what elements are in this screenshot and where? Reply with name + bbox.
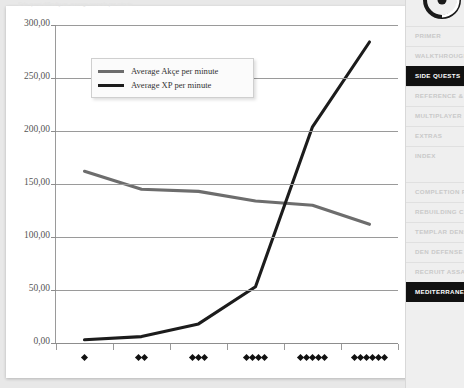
- line-average-akce: [85, 171, 370, 224]
- x-axis-category-labels: [56, 353, 398, 369]
- y-axis-tick: [51, 25, 56, 26]
- legend-swatch-akce: [98, 70, 124, 73]
- chart-card: Side quest difficulty vs. average reward…: [6, 6, 408, 378]
- y-axis-labels: 0,0050,00100,00150,00200,00250,00300,00: [6, 6, 50, 378]
- x-axis-tick: [113, 344, 114, 350]
- y-axis-tick-label: 150,00: [6, 177, 50, 187]
- x-axis-category-6: [341, 353, 398, 363]
- x-axis-category-2: [113, 353, 170, 363]
- y-axis-tick: [51, 78, 56, 79]
- sidebar-group-separator: [406, 166, 464, 182]
- y-axis-tick-label: 200,00: [6, 124, 50, 134]
- sidebar-item-templar-dens[interactable]: TEMPLAR DENS: [406, 222, 464, 242]
- x-axis-category-5: [284, 353, 341, 363]
- sidebar-item-rebuilding-constantinople[interactable]: REBUILDING CONSTANTINOPLE: [406, 202, 464, 222]
- x-axis-ticks: [56, 344, 398, 351]
- chart-legend: Average Akçe per minute Average XP per m…: [91, 58, 254, 98]
- diamond-icon: [381, 354, 388, 361]
- y-axis-tick-label: 300,00: [6, 18, 50, 28]
- sidebar-nav-list: PRIMERWALKTHROUGHSIDE QUESTSREFERENCE & …: [406, 26, 464, 302]
- x-axis-category-1: [56, 353, 113, 363]
- sidebar-item-multiplayer[interactable]: MULTIPLAYER: [406, 106, 464, 126]
- legend-item: Average Akçe per minute: [98, 64, 247, 78]
- sidebar-item-side-quests[interactable]: SIDE QUESTS: [406, 66, 464, 86]
- x-axis-category-4: [227, 353, 284, 363]
- gridline: [56, 131, 398, 132]
- brand-logo-icon: [422, 0, 462, 20]
- gridline: [56, 184, 398, 185]
- sidebar-item-completion-roadmap[interactable]: COMPLETION ROADMAP: [406, 182, 464, 202]
- y-axis-tick: [51, 237, 56, 238]
- sidebar-item-reference-analysis[interactable]: REFERENCE & ANALYSIS: [406, 86, 464, 106]
- diamond-icon: [261, 354, 268, 361]
- y-axis-tick-label: 250,00: [6, 71, 50, 81]
- sidebar-item-index[interactable]: INDEX: [406, 146, 464, 166]
- legend-item: Average XP per minute: [98, 78, 247, 92]
- legend-label-xp: Average XP per minute: [131, 80, 211, 90]
- page-background: Side quest difficulty vs. average reward…: [0, 0, 464, 388]
- diamond-icon: [141, 354, 148, 361]
- legend-swatch-xp: [98, 84, 124, 87]
- y-axis-tick-label: 0,00: [6, 336, 50, 346]
- x-axis-category-3: [170, 353, 227, 363]
- diamond-icon: [201, 354, 208, 361]
- x-axis-tick: [227, 344, 228, 350]
- y-axis-tick-label: 100,00: [6, 230, 50, 240]
- diamond-icon: [81, 354, 88, 361]
- sidebar-item-primer[interactable]: PRIMER: [406, 26, 464, 46]
- sidebar-item-mediterranean-defense[interactable]: MEDITERRANEAN DEFENSE: [406, 282, 464, 302]
- sidebar-item-walkthrough[interactable]: WALKTHROUGH: [406, 46, 464, 66]
- x-axis-tick: [284, 344, 285, 350]
- sidebar-item-extras[interactable]: EXTRAS: [406, 126, 464, 146]
- diamond-icon: [321, 354, 328, 361]
- x-axis-tick: [398, 344, 399, 350]
- y-axis-tick: [51, 290, 56, 291]
- gridline: [56, 25, 398, 26]
- y-axis-tick: [51, 343, 56, 344]
- gridline: [56, 237, 398, 238]
- legend-label-akce: Average Akçe per minute: [131, 66, 218, 76]
- sidebar-item-den-defense[interactable]: DEN DEFENSE: [406, 242, 464, 262]
- sidebar: PRIMERWALKTHROUGHSIDE QUESTSREFERENCE & …: [405, 0, 464, 388]
- sidebar-item-recruit-assassins[interactable]: RECRUIT ASSASSINS: [406, 262, 464, 282]
- chart-caption: Side quest difficulty vs. average reward…: [18, 1, 348, 9]
- y-axis-tick: [51, 184, 56, 185]
- y-axis-tick: [51, 131, 56, 132]
- x-axis-tick: [341, 344, 342, 350]
- y-axis-tick-label: 50,00: [6, 283, 50, 293]
- x-axis-tick: [56, 344, 57, 350]
- gridline: [56, 290, 398, 291]
- x-axis-tick: [170, 344, 171, 350]
